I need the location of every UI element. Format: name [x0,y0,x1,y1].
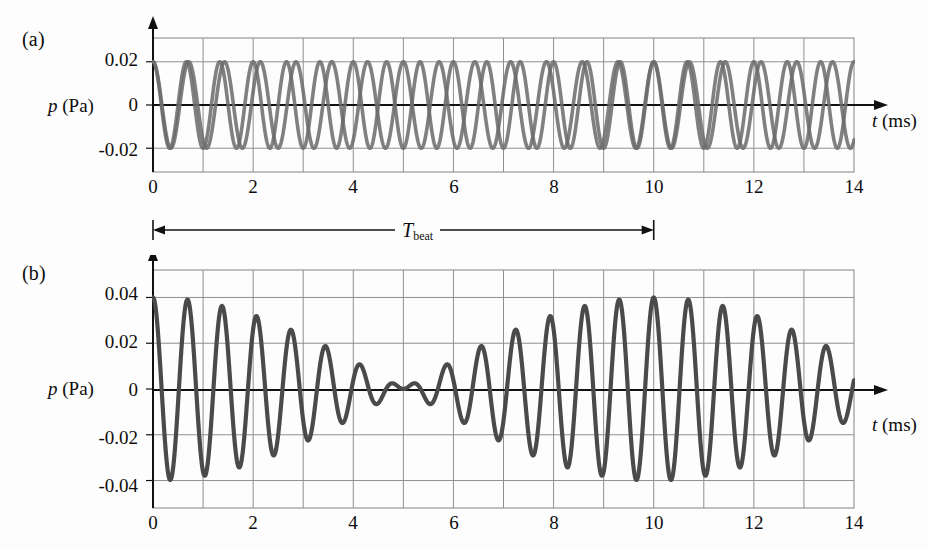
panel-b-ytick-0: 0.04 [52,283,138,305]
panel-b-xtick-2: 4 [348,512,358,534]
panel-b-xtick-4: 8 [549,512,559,534]
panel-a-letter: (a) [22,28,45,51]
panel-a-xtick-4: 8 [549,176,559,198]
panel-a-ytick-1: 0 [60,94,138,116]
panel-b-xtick-0: 0 [148,512,158,534]
panel-b-ytick-4: -0.04 [40,475,138,497]
panel-a-plot [0,0,927,215]
panel-a-x-unit: (ms) [882,110,917,131]
beats-figure: (a) p (Pa) 0.02 0 -0.02 0 2 4 6 8 10 12 … [0,0,927,549]
panel-a-xtick-2: 4 [348,176,358,198]
panel-b-x-symbol: t [872,414,877,435]
panel-b-xtick-1: 2 [248,512,258,534]
beat-period-symbol: T [402,219,413,241]
panel-b-xtick-3: 6 [449,512,459,534]
beat-period-subscript: beat [413,229,433,243]
panel-a-ytick-0: 0.02 [60,49,138,71]
beat-period-label: Tbeat [395,219,440,242]
panel-b-ytick-3: -0.02 [40,427,138,449]
panel-b-plot [0,255,927,545]
panel-b-x-axis-label: t (ms) [872,414,917,436]
beat-period-annotation [0,215,927,255]
panel-a-y-symbol: p [48,95,58,116]
panel-b-ytick-1: 0.02 [52,331,138,353]
panel-b-xtick-7: 14 [845,512,864,534]
panel-b-ytick-2: 0 [52,379,138,401]
panel-a-x-axis-label: t (ms) [872,110,917,132]
panel-a-xtick-3: 6 [449,176,459,198]
panel-b-x-unit: (ms) [882,414,917,435]
panel-a-xtick-1: 2 [248,176,258,198]
panel-b-letter: (b) [22,262,46,285]
panel-a-xtick-7: 14 [845,176,864,198]
panel-a-ytick-2: -0.02 [48,139,138,161]
panel-a-xtick-0: 0 [148,176,158,198]
panel-a-xtick-6: 12 [745,176,764,198]
panel-a-x-symbol: t [872,110,877,131]
panel-b-xtick-5: 10 [645,512,664,534]
panel-a-xtick-5: 10 [645,176,664,198]
panel-b-xtick-6: 12 [745,512,764,534]
